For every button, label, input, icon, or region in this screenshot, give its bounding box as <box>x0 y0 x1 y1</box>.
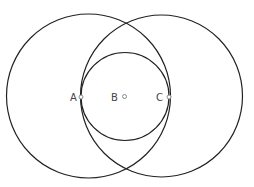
point-b-label: B <box>111 92 118 103</box>
point-a-label: A <box>70 92 77 103</box>
point-c-marker <box>167 95 171 99</box>
geometry-diagram: A B C <box>0 0 254 187</box>
left-circle <box>7 14 171 178</box>
point-c-label: C <box>156 92 163 103</box>
point-a-marker <box>79 95 83 99</box>
point-b-marker <box>123 95 127 99</box>
